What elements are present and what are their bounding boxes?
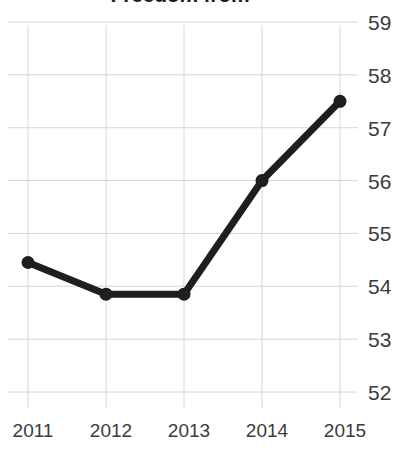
data-point (22, 256, 35, 269)
data-point (178, 288, 191, 301)
x-axis-tick-label: 2014 (246, 421, 288, 440)
y-axis-tick-label: 56 (368, 170, 410, 191)
y-axis-tick-label: 52 (368, 382, 410, 403)
y-axis-tick-label: 57 (368, 117, 410, 138)
x-axis-tick-label: 2012 (90, 421, 132, 440)
x-axis-tick-label: 2011 (13, 421, 54, 440)
y-axis-tick-label: 59 (368, 12, 410, 33)
plot-area (0, 0, 360, 410)
data-point (256, 174, 269, 187)
x-axis-tick-label: 2015 (324, 421, 366, 440)
data-point (100, 288, 113, 301)
y-axis-tick-label: 58 (368, 64, 410, 85)
y-axis-tick-label: 54 (368, 276, 410, 297)
horizontal-gridlines (8, 22, 358, 392)
chart-canvas (0, 0, 360, 410)
vertical-gridlines (28, 25, 340, 408)
y-axis-tick-label: 53 (368, 329, 410, 350)
line-chart: Freedom from 5958575655545352 2011201220… (0, 0, 415, 457)
data-point (334, 95, 347, 108)
x-axis-tick-label: 2013 (168, 421, 210, 440)
y-axis-tick-label: 55 (368, 223, 410, 244)
